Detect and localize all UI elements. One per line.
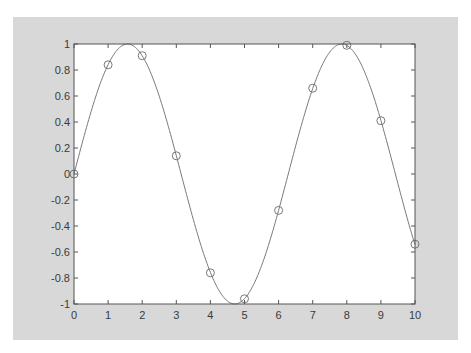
y-tick-label: -0.2 [51,194,70,206]
x-tick-label: 8 [344,309,350,321]
x-tick-label: 2 [139,309,145,321]
x-tick-label: 0 [71,309,77,321]
y-tick-label: -0.8 [51,272,70,284]
y-tick-label: 0.6 [55,90,70,102]
x-tick-label: 9 [378,309,384,321]
y-tick-label: 0.2 [55,142,70,154]
x-tick-label: 5 [241,309,247,321]
y-tick-label: 1 [64,38,70,50]
x-tick-label: 10 [409,309,421,321]
y-tick-label: -1 [60,298,70,310]
y-tick-label: -0.4 [51,220,70,232]
x-tick-label: 1 [105,309,111,321]
x-tick-label: 4 [207,309,213,321]
y-tick-label: 0.8 [55,64,70,76]
y-tick-label: -0.6 [51,246,70,258]
chart-canvas: 012345678910 -1-0.8-0.6-0.4-0.200.20.40.… [0,0,471,353]
x-tick-label: 6 [276,309,282,321]
x-tick-label: 3 [173,309,179,321]
x-tick-label: 7 [310,309,316,321]
y-tick-label: 0 [64,168,70,180]
y-tick-label: 0.4 [55,116,70,128]
axes-area [74,44,415,304]
